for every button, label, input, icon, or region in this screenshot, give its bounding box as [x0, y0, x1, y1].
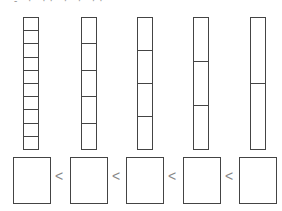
answer-box-3[interactable]: [126, 157, 164, 204]
bar-segment: [251, 18, 265, 84]
bar-segment: [24, 84, 38, 97]
fraction-bar-fourths: [137, 17, 153, 150]
bar-segment: [24, 124, 38, 137]
bar-segment: [24, 18, 38, 31]
bar-segment: [24, 71, 38, 84]
answer-box-4[interactable]: [183, 157, 221, 204]
bar-segment: [24, 110, 38, 123]
bar-segment: [138, 117, 152, 149]
answer-box-5[interactable]: [239, 157, 277, 204]
bar-segment: [82, 97, 96, 123]
bar-segment: [251, 84, 265, 149]
header-text-fragment: - · ·· · · ··: [14, 0, 107, 6]
fraction-bar-fifths: [81, 17, 97, 150]
fraction-bar-halves: [250, 17, 266, 150]
bar-segment: [138, 51, 152, 84]
fraction-bar-thirds: [193, 17, 209, 150]
less-than-sign: <: [112, 169, 120, 183]
bar-segment: [24, 97, 38, 110]
less-than-sign: <: [225, 169, 233, 183]
less-than-sign: <: [55, 169, 63, 183]
bar-segment: [82, 18, 96, 44]
bar-segment: [138, 84, 152, 117]
fraction-bar-tenths: [23, 17, 39, 150]
bar-segment: [24, 44, 38, 57]
bar-segment: [194, 62, 208, 106]
bar-segment: [138, 18, 152, 51]
bar-segment: [82, 71, 96, 97]
bar-segment: [24, 137, 38, 149]
bar-segment: [24, 58, 38, 71]
bar-segment: [194, 18, 208, 62]
answer-box-2[interactable]: [70, 157, 108, 204]
less-than-sign: <: [168, 169, 176, 183]
bar-segment: [194, 106, 208, 149]
answer-box-1[interactable]: [13, 157, 51, 204]
bar-segment: [82, 44, 96, 70]
bar-segment: [82, 124, 96, 149]
bar-segment: [24, 31, 38, 44]
